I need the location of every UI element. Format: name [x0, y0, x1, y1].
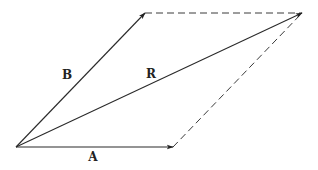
vector-diagram	[0, 0, 318, 170]
vector-a-label: A	[88, 151, 97, 163]
vector-r-arrow	[16, 13, 302, 147]
vector-r-label: R	[146, 68, 156, 80]
vector-b-label: B	[62, 69, 72, 81]
vector-b-arrow	[16, 13, 145, 147]
dashed-line-a-to-r	[173, 13, 302, 147]
